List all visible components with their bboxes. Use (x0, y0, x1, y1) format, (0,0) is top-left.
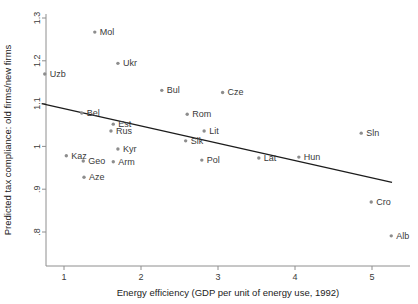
point-marker (200, 158, 203, 161)
point-label: Rus (116, 126, 133, 136)
data-point-kaz: Kaz (65, 151, 88, 161)
data-point-bul: Bul (160, 85, 180, 95)
point-marker (202, 129, 205, 132)
point-label: Slk (191, 136, 204, 146)
y-axis-tick-label: 1.2 (32, 55, 42, 68)
data-point-pol: Pol (200, 155, 220, 165)
point-label: Cro (376, 197, 391, 207)
point-marker (257, 156, 260, 159)
point-marker (116, 147, 119, 150)
point-label: Lat (264, 153, 277, 163)
data-point-bel: Bel (80, 108, 100, 118)
point-label: Hun (304, 152, 321, 162)
point-label: Kaz (71, 151, 87, 161)
point-marker (116, 62, 119, 65)
data-point-lit: Lit (202, 126, 219, 136)
data-point-hun: Hun (297, 152, 320, 162)
x-axis-tick-label: 5 (369, 272, 374, 282)
point-label: Uzb (50, 69, 66, 79)
y-axis-title: Predicted tax compliance: old firms/new … (2, 44, 13, 235)
point-marker (390, 234, 393, 237)
point-label: Arm (118, 157, 135, 167)
point-marker (370, 200, 373, 203)
point-label: Bel (87, 108, 100, 118)
point-marker (109, 129, 112, 132)
data-point-cze: Cze (221, 87, 244, 97)
data-point-mol: Mol (93, 27, 114, 37)
point-marker (65, 154, 68, 157)
data-points: MolUkrUzbBulCzeRomBelLitEstRusSlkSlnKyrK… (43, 27, 409, 241)
data-point-arm: Arm (112, 157, 135, 167)
point-marker (82, 159, 85, 162)
point-marker (80, 111, 83, 114)
data-point-kyr: Kyr (116, 144, 136, 154)
point-label: Bul (167, 85, 180, 95)
data-point-sln: Sln (360, 128, 380, 138)
point-marker (221, 91, 224, 94)
point-marker (43, 72, 46, 75)
point-label: Mol (100, 27, 115, 37)
point-label: Cze (228, 87, 244, 97)
point-label: Sln (366, 128, 379, 138)
y-axis-tick-label: 1 (32, 144, 42, 149)
x-axis-title: Energy efficiency (GDP per unit of energ… (117, 287, 340, 298)
plot-canvas: .8.911.11.21.3 12345 MolUkrUzbBulCzeRomB… (0, 0, 418, 304)
point-marker (82, 176, 85, 179)
point-marker (186, 113, 189, 116)
point-marker (184, 139, 187, 142)
point-marker (112, 160, 115, 163)
point-label: Aze (89, 172, 105, 182)
point-label: Kyr (123, 144, 137, 154)
axis-titles: Energy efficiency (GDP per unit of energ… (2, 44, 339, 298)
data-point-rus: Rus (109, 126, 132, 136)
y-axis-tick-label: 1.1 (32, 97, 42, 110)
point-marker (112, 122, 115, 125)
point-label: Lit (209, 126, 219, 136)
point-label: Rom (192, 109, 211, 119)
y-axis: .8.911.11.21.3 (32, 12, 46, 266)
x-axis-tick-label: 1 (61, 272, 66, 282)
data-point-cro: Cro (370, 197, 391, 207)
x-axis-tick-label: 4 (292, 272, 297, 282)
point-label: Alb (396, 231, 409, 241)
point-label: Geo (88, 156, 105, 166)
x-axis-tick-label: 2 (138, 272, 143, 282)
point-marker (360, 131, 363, 134)
point-label: Pol (207, 155, 220, 165)
data-point-alb: Alb (390, 231, 410, 241)
data-point-aze: Aze (82, 172, 104, 182)
x-axis-tick-label: 3 (215, 272, 220, 282)
scatter-plot-figure: .8.911.11.21.3 12345 MolUkrUzbBulCzeRomB… (0, 0, 418, 304)
y-axis-tick-label: 1.3 (32, 12, 42, 25)
point-marker (93, 30, 96, 33)
x-axis: 12345 (46, 266, 410, 282)
point-label: Ukr (123, 58, 137, 68)
y-axis-tick-label: .9 (32, 185, 42, 193)
point-marker (297, 155, 300, 158)
data-point-ukr: Ukr (116, 58, 137, 68)
data-point-slk: Slk (184, 136, 204, 146)
y-axis-tick-label: .8 (32, 228, 42, 236)
data-point-lat: Lat (257, 153, 277, 163)
data-point-rom: Rom (186, 109, 212, 119)
point-marker (160, 89, 163, 92)
